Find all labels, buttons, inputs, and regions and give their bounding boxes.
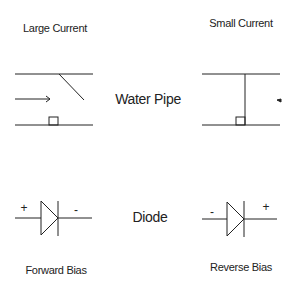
stopper	[236, 117, 245, 125]
diagram-canvas	[0, 0, 291, 294]
water-pipe-label: Water Pipe	[115, 91, 181, 107]
reverse-plus-sign: +	[262, 200, 269, 214]
reverse-minus-sign: -	[210, 205, 214, 219]
diode-label: Diode	[132, 209, 167, 225]
small-current-label: Small Current	[209, 17, 272, 29]
forward-plus-sign: +	[20, 201, 27, 215]
small-current-pipe	[202, 74, 281, 125]
open-flap	[59, 74, 84, 100]
large-current-pipe	[15, 74, 93, 125]
forward-minus-sign: -	[74, 203, 78, 217]
stopper	[49, 117, 58, 125]
forward-bias-label: Forward Bias	[25, 264, 86, 276]
small-arrow-head	[277, 99, 281, 102]
large-current-label: Large Current	[23, 22, 87, 34]
reverse-bias-label: Reverse Bias	[210, 261, 272, 273]
